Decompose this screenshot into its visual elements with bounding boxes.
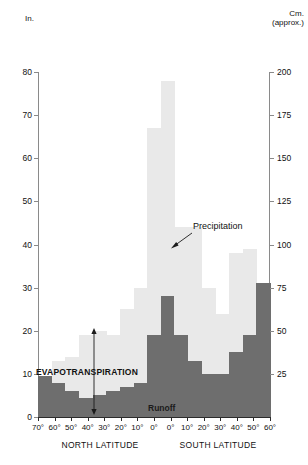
runoff-bar	[93, 395, 107, 417]
left-axis-tick-label: 20	[12, 327, 32, 336]
runoff-bar	[65, 391, 79, 417]
left-axis-tick	[34, 245, 38, 246]
x-axis-tick	[171, 417, 172, 421]
runoff-bar	[202, 374, 216, 417]
right-axis-tick	[270, 374, 274, 375]
runoff-bar	[161, 296, 175, 417]
runoff-bar	[188, 361, 202, 417]
runoff-bar	[243, 335, 257, 417]
plot-area	[38, 72, 270, 417]
right-axis-tick-label: 125	[277, 197, 303, 206]
left-axis-tick	[34, 158, 38, 159]
left-axis-tick	[34, 72, 38, 73]
runoff-bar	[174, 335, 188, 417]
right-axis-tick-label: 200	[277, 68, 303, 77]
runoff-bar	[215, 374, 229, 417]
x-axis-tick	[55, 417, 56, 421]
x-axis-tick	[137, 417, 138, 421]
x-axis-tick	[253, 417, 254, 421]
left-axis-tick	[34, 288, 38, 289]
left-axis-unit-label: In.	[25, 14, 34, 23]
hemisphere-label-north: NORTH LATITUDE	[40, 440, 160, 450]
runoff-bar	[256, 283, 270, 417]
evapotranspiration-region-label: EVAPOTRANSPIRATION	[36, 367, 138, 377]
left-axis-tick	[34, 331, 38, 332]
right-axis-tick	[270, 72, 274, 73]
x-axis-tick	[71, 417, 72, 421]
hemisphere-label-south: SOUTH LATITUDE	[158, 440, 278, 450]
left-axis-tick-label: 70	[12, 111, 32, 120]
left-axis-tick	[34, 201, 38, 202]
left-axis-tick-label: 80	[12, 68, 32, 77]
right-axis-tick-label: 75	[277, 284, 303, 293]
right-axis-tick-label: 50	[277, 327, 303, 336]
runoff-region-label: Runoff	[148, 403, 175, 413]
x-axis-tick	[204, 417, 205, 421]
right-axis-tick-label: 100	[277, 241, 303, 250]
right-axis-unit-label: Cm. (approx.)	[272, 9, 304, 27]
runoff-bar	[79, 398, 93, 417]
runoff-bar	[52, 383, 66, 418]
x-axis-tick	[154, 417, 155, 421]
runoff-bar	[106, 391, 120, 417]
right-axis-tick	[270, 288, 274, 289]
left-axis-tick-label: 0	[12, 413, 32, 422]
right-axis-tick	[270, 201, 274, 202]
right-axis-tick	[270, 158, 274, 159]
x-axis-tick	[38, 417, 39, 421]
x-axis-tick	[121, 417, 122, 421]
x-axis-tick	[187, 417, 188, 421]
left-axis-tick-label: 10	[12, 370, 32, 379]
right-axis-tick	[270, 115, 274, 116]
precipitation-callout-label: Precipitation	[193, 221, 243, 231]
right-axis-tick	[270, 245, 274, 246]
latitude-water-balance-chart: In. Cm. (approx.) 8070605040302010020017…	[0, 0, 308, 465]
left-axis-tick-label: 50	[12, 197, 32, 206]
x-axis-tick-label: 60°	[259, 423, 281, 432]
runoff-bar	[38, 376, 52, 417]
right-axis-tick-label: 150	[277, 154, 303, 163]
x-axis-tick	[88, 417, 89, 421]
right-axis-unit-line1: Cm.	[272, 9, 304, 18]
runoff-bar	[134, 383, 148, 418]
x-axis-tick	[270, 417, 271, 421]
left-axis-tick-label: 60	[12, 154, 32, 163]
left-axis-tick	[34, 115, 38, 116]
left-axis-tick-label: 40	[12, 241, 32, 250]
right-axis-unit-line2: (approx.)	[272, 18, 304, 27]
runoff-bar	[120, 387, 134, 417]
x-axis-tick	[220, 417, 221, 421]
right-axis-tick-label: 175	[277, 111, 303, 120]
x-axis-tick	[237, 417, 238, 421]
runoff-bar	[229, 352, 243, 417]
right-axis-tick	[270, 331, 274, 332]
left-axis-tick-label: 30	[12, 284, 32, 293]
x-axis-tick	[104, 417, 105, 421]
right-axis-tick-label: 25	[277, 370, 303, 379]
